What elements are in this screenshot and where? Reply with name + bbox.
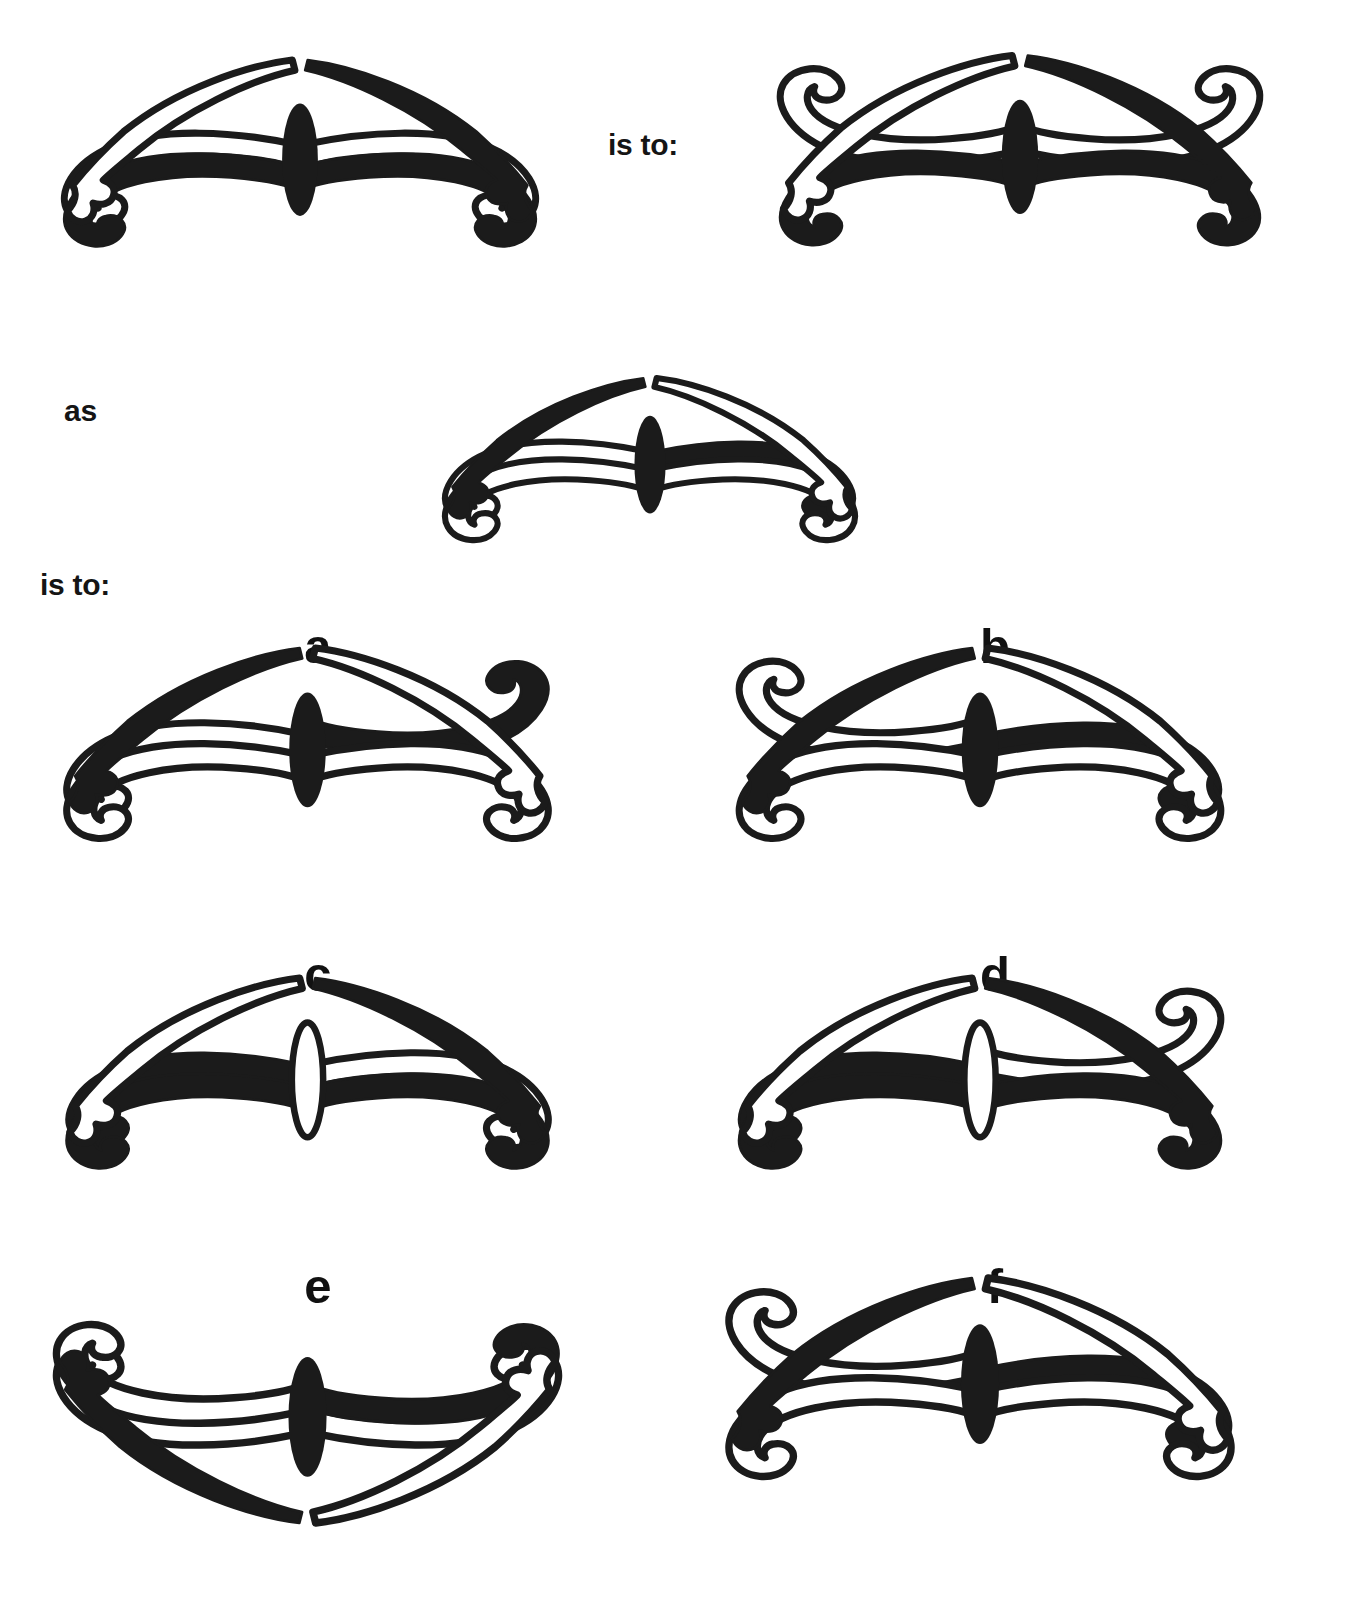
body-ellipse [962, 692, 999, 807]
body-ellipse [289, 692, 326, 807]
connector-is-to-2: is to: [40, 568, 110, 602]
connector-is-to-1: is to: [608, 128, 678, 162]
body-ellipse [964, 1022, 995, 1137]
option-figure-d[interactable] [700, 978, 1260, 1213]
option-figure-b[interactable] [700, 648, 1260, 883]
body-ellipse [634, 416, 665, 514]
stem-figure-1 [40, 60, 560, 290]
body-ellipse [288, 1357, 326, 1477]
option-figure-a[interactable] [35, 648, 580, 883]
connector-as: as [64, 394, 97, 428]
body-ellipse [282, 103, 318, 215]
stem-figure-2 [760, 55, 1280, 290]
body-ellipse [292, 1022, 323, 1137]
stem-figure-3 [390, 378, 910, 578]
option-figure-f[interactable] [700, 1278, 1260, 1523]
analogy-puzzle-page: is to: as is to: a b c d e f [0, 0, 1353, 1608]
body-ellipse [1002, 100, 1038, 214]
body-ellipse [961, 1324, 999, 1444]
option-figure-c[interactable] [35, 978, 580, 1213]
option-figure-e[interactable] [35, 1278, 580, 1523]
